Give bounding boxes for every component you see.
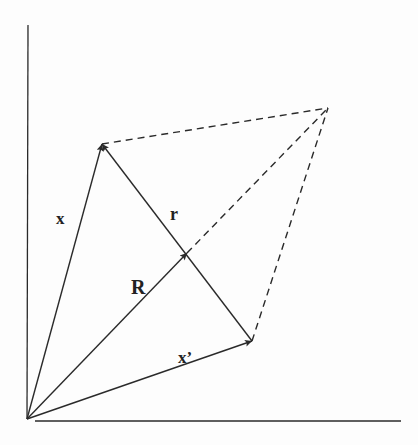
vector-diagram: x r R x’ [0, 0, 418, 445]
diagram-svg: x r R x’ [0, 0, 418, 445]
vector-R [27, 253, 187, 419]
label-x: x [56, 209, 65, 228]
label-r: r [170, 204, 178, 224]
vector-x [27, 144, 102, 419]
y-axis [27, 25, 28, 419]
label-R: R [131, 276, 146, 298]
vector-r [102, 144, 252, 341]
vector-xp [27, 341, 252, 419]
dashed-line-1 [187, 108, 328, 253]
dashed-line-2 [252, 108, 328, 341]
label-x-prime: x’ [178, 348, 192, 367]
dashed-line-0 [102, 108, 328, 144]
